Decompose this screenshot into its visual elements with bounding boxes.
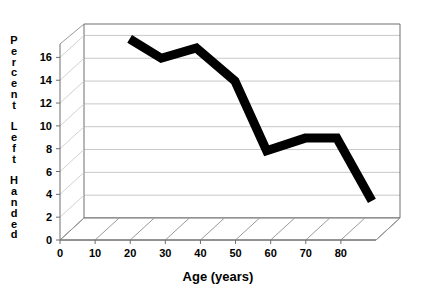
x-axis-ticks <box>60 240 341 244</box>
x-tick-label: 30 <box>159 247 171 259</box>
x-tick-label: 70 <box>300 247 312 259</box>
y-tick-label: 12 <box>40 97 52 109</box>
y-tick-label: 10 <box>40 120 52 132</box>
plot-floor <box>60 218 400 240</box>
x-tick-label: 50 <box>229 247 241 259</box>
depth-connector-lines <box>60 35 84 217</box>
y-axis-title-char: d <box>11 228 18 240</box>
y-tick-label: 2 <box>46 211 52 223</box>
y-axis-ticks <box>56 57 60 240</box>
x-axis-title: Age (years) <box>183 269 254 284</box>
line-chart: 0246810121416 01020304050607080 Age (yea… <box>0 0 423 293</box>
y-tick-label: 6 <box>46 166 52 178</box>
y-tick-label: 4 <box>46 188 53 200</box>
x-tick-label: 40 <box>194 247 206 259</box>
y-tick-label: 16 <box>40 51 52 63</box>
y-tick-label: 0 <box>46 234 52 246</box>
x-tick-label: 0 <box>57 247 63 259</box>
x-tick-label: 10 <box>89 247 101 259</box>
y-tick-label: 8 <box>46 143 52 155</box>
chart-container: 0246810121416 01020304050607080 Age (yea… <box>0 0 423 293</box>
x-axis-tick-labels: 01020304050607080 <box>57 247 347 259</box>
x-tick-label: 80 <box>335 247 347 259</box>
plot-back-wall <box>84 24 400 218</box>
y-axis-title: PercentLeftHanded <box>10 34 18 240</box>
y-axis-depth-line <box>60 24 84 44</box>
x-tick-label: 20 <box>124 247 136 259</box>
y-axis-title-char: t <box>12 99 16 111</box>
y-axis-tick-labels: 0246810121416 <box>40 51 53 246</box>
x-tick-label: 60 <box>265 247 277 259</box>
y-axis-title-char: t <box>12 153 16 165</box>
y-tick-label: 14 <box>40 74 53 86</box>
